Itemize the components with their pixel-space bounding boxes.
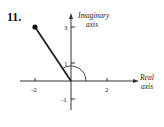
x-tick-label-neg2: -2 — [31, 86, 37, 94]
x-tick-label-2: 2 — [105, 86, 109, 94]
vector-segment — [35, 27, 71, 81]
imaginary-axis-arrow-icon — [69, 13, 73, 19]
real-axis-arrow-icon — [133, 79, 139, 83]
real-axis-label-line2: axis — [141, 82, 153, 91]
point-dot — [32, 24, 37, 29]
imaginary-axis-label-line1: Imaginary — [77, 11, 110, 20]
y-tick-label-neg1: -1 — [61, 96, 67, 104]
imaginary-axis-label-line2: axis — [86, 20, 98, 29]
y-tick-label-3: 3 — [64, 24, 68, 32]
real-axis-label-line1: Real — [139, 73, 154, 82]
complex-plane-diagram: -2 2 3 1 -1 Imaginary axis Real axis — [0, 0, 164, 127]
